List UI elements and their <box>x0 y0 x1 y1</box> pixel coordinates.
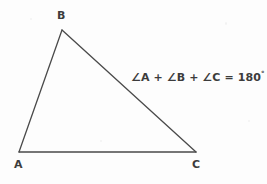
scan-speck <box>225 22 227 25</box>
angle-sum-annotation: ∠A + ∠B + ∠C = 180° <box>131 71 265 83</box>
side-ab <box>19 30 62 152</box>
vertex-label-a: A <box>14 159 23 170</box>
scan-speck <box>248 120 250 122</box>
scan-speck <box>100 140 102 142</box>
angle-sum-expression: ∠A + ∠B + ∠C = 180 <box>131 71 261 84</box>
geometry-figure: A B C ∠A + ∠B + ∠C = 180° <box>0 0 267 184</box>
triangle-shape <box>0 0 267 184</box>
scan-speck <box>30 18 32 20</box>
vertex-label-b: B <box>57 10 66 21</box>
side-bc <box>62 30 196 152</box>
vertex-label-c: C <box>192 159 200 170</box>
degree-symbol: ° <box>261 70 265 78</box>
